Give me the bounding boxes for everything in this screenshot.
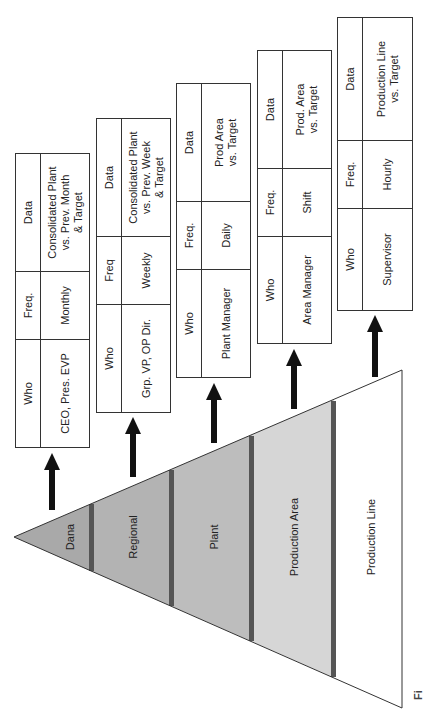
who-header: Who bbox=[97, 305, 122, 412]
divider bbox=[249, 436, 254, 641]
data-column: Data Consolidated Plant vs. Prev. Week &… bbox=[97, 119, 170, 236]
kpi-table-plant: Who Plant Manager Freq. Daily Data Prod … bbox=[176, 83, 251, 378]
freq-value: Shift bbox=[283, 169, 331, 236]
arrow-up-icon bbox=[125, 417, 141, 477]
arrow-up-icon bbox=[206, 383, 222, 443]
figure-caption: Fi bbox=[412, 690, 424, 700]
freq-value: Hourly bbox=[363, 141, 412, 208]
who-column: Who Area Manager bbox=[258, 236, 331, 343]
who-header: Who bbox=[258, 237, 283, 343]
who-value: Supervisor bbox=[363, 209, 412, 310]
who-column: Who CEO, Pres. EVP bbox=[16, 339, 89, 447]
level-dana-segment bbox=[14, 503, 92, 571]
who-column: Who Plant Manager bbox=[177, 269, 250, 377]
freq-header: Freq. bbox=[338, 141, 363, 208]
freq-value: Monthly bbox=[41, 272, 89, 339]
kpi-table-production-line: Who Supervisor Freq. Hourly Data Product… bbox=[337, 17, 413, 311]
who-header: Who bbox=[338, 209, 363, 310]
who-column: Who Supervisor bbox=[338, 208, 412, 310]
level-label-production-line: Production Line bbox=[365, 499, 377, 575]
who-value: Area Manager bbox=[283, 237, 331, 343]
divider bbox=[89, 504, 94, 571]
who-column: Who Grp. VP, OP Dir. bbox=[97, 304, 170, 412]
level-label-regional: Regional bbox=[127, 515, 139, 558]
who-value: Grp. VP, OP Dir. bbox=[122, 305, 170, 412]
data-value: Prod Area vs. Target bbox=[202, 84, 250, 201]
data-value: Consolidated Plant vs. Prev. Week & Targ… bbox=[122, 119, 170, 236]
data-header: Data bbox=[258, 51, 283, 168]
kpi-table-production-area: Who Area Manager Freq. Shift Data Prod. … bbox=[257, 50, 332, 344]
freq-column: Freq Weekly bbox=[97, 236, 170, 304]
level-label-plant: Plant bbox=[208, 524, 220, 549]
data-value: Production Line vs. Target bbox=[363, 18, 412, 140]
freq-column: Freq. Shift bbox=[258, 168, 331, 236]
data-header: Data bbox=[338, 18, 363, 140]
freq-header: Freq. bbox=[177, 202, 202, 269]
data-column: Data Production Line vs. Target bbox=[338, 18, 412, 140]
freq-column: Freq. Hourly bbox=[338, 140, 412, 208]
freq-value: Daily bbox=[202, 202, 250, 269]
level-label-dana: Dana bbox=[64, 524, 76, 550]
data-value: Consolidated Plant vs. Prev. Month & Tar… bbox=[41, 154, 89, 271]
freq-header: Freq. bbox=[258, 169, 283, 236]
who-value: CEO, Pres. EVP bbox=[41, 340, 89, 447]
data-column: Data Consolidated Plant vs. Prev. Month … bbox=[16, 154, 89, 271]
arrow-up-icon bbox=[367, 315, 383, 377]
kpi-table-regional: Who Grp. VP, OP Dir. Freq Weekly Data Co… bbox=[96, 118, 171, 413]
arrow-up-icon bbox=[44, 453, 60, 510]
freq-value: Weekly bbox=[122, 237, 170, 304]
data-column: Data Prod Area vs. Target bbox=[177, 84, 250, 201]
freq-header: Freq. bbox=[16, 272, 41, 339]
data-header: Data bbox=[177, 84, 202, 201]
divider bbox=[169, 470, 174, 606]
level-label-production-area: Production Area bbox=[288, 498, 300, 576]
freq-column: Freq. Monthly bbox=[16, 271, 89, 339]
data-header: Data bbox=[16, 154, 41, 271]
who-header: Who bbox=[16, 340, 41, 447]
who-header: Who bbox=[177, 270, 202, 377]
freq-column: Freq. Daily bbox=[177, 201, 250, 269]
data-value: Prod. Area vs. Target bbox=[283, 51, 331, 168]
data-header: Data bbox=[97, 119, 122, 236]
kpi-table-dana: Who CEO, Pres. EVP Freq. Monthly Data Co… bbox=[15, 153, 90, 448]
freq-header: Freq bbox=[97, 237, 122, 304]
who-value: Plant Manager bbox=[202, 270, 250, 377]
arrow-up-icon bbox=[286, 349, 302, 409]
data-column: Data Prod. Area vs. Target bbox=[258, 51, 331, 168]
divider bbox=[331, 401, 336, 677]
